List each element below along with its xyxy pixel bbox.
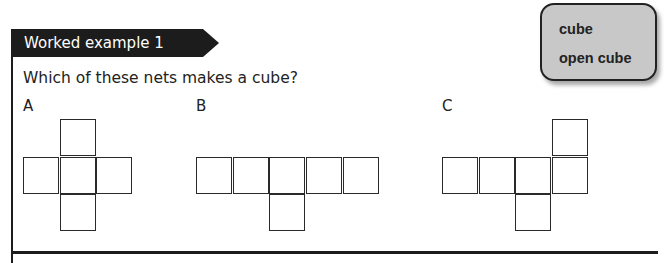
worked-example-title: Worked example 1	[24, 33, 164, 53]
net-square	[269, 194, 305, 231]
net-square	[60, 119, 96, 156]
question-text: Which of these nets makes a cube?	[23, 68, 298, 88]
net-square	[479, 157, 515, 194]
banner-arrow	[203, 29, 219, 57]
net-square	[515, 157, 551, 194]
net-square	[552, 157, 588, 194]
keyword-cube: cube	[559, 21, 593, 37]
left-rule	[11, 57, 13, 263]
net-square	[196, 157, 232, 194]
bottom-rule	[11, 251, 658, 254]
net-square	[442, 157, 478, 194]
net-square	[269, 157, 305, 194]
net-square	[60, 157, 96, 194]
net-square	[233, 157, 269, 194]
keyword-box: cube open cube	[540, 3, 657, 81]
net-square	[96, 157, 132, 194]
net-label-b: B	[196, 97, 206, 115]
net-square	[552, 119, 588, 156]
net-square	[60, 194, 96, 231]
net-square	[343, 157, 379, 194]
net-square	[23, 157, 59, 194]
net-square	[515, 194, 551, 231]
keyword-open-cube: open cube	[559, 50, 632, 66]
net-square	[306, 157, 342, 194]
net-label-c: C	[442, 97, 452, 115]
net-label-a: A	[23, 97, 33, 115]
